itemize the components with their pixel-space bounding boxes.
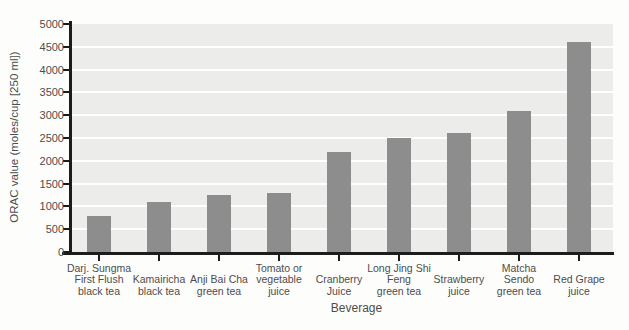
y-tick-label-4000: 4000 (0, 64, 64, 76)
y-tick-1000 (63, 205, 71, 207)
y-tick-label-500: 500 (0, 223, 64, 235)
gridline-3500 (72, 91, 613, 93)
y-tick-1500 (63, 183, 71, 185)
chart-bar-4 (267, 193, 291, 252)
gridline-2500 (72, 137, 613, 139)
chart-bar-3 (207, 195, 231, 252)
chart-bar-5 (327, 152, 351, 252)
orac-bar-chart-figure: ORAC value (moles/cup [250 ml]) Beverage… (0, 0, 629, 330)
y-tick-label-5000: 5000 (0, 18, 64, 30)
y-tick-5000 (63, 23, 71, 25)
y-tick-label-4500: 4500 (0, 41, 64, 53)
chart-bar-7 (447, 133, 471, 252)
y-tick-label-2000: 2000 (0, 155, 64, 167)
y-tick-4000 (63, 69, 71, 71)
y-tick-label-0: 0 (0, 246, 64, 258)
chart-bar-6 (387, 138, 411, 252)
y-tick-2500 (63, 137, 71, 139)
gridline-4500 (72, 46, 613, 48)
y-tick-500 (63, 228, 71, 230)
gridline-4000 (72, 69, 613, 71)
y-tick-3500 (63, 91, 71, 93)
y-tick-label-3000: 3000 (0, 109, 64, 121)
y-tick-2000 (63, 160, 71, 162)
category-label-9: Red Grape juice (541, 259, 617, 297)
y-tick-label-3500: 3500 (0, 86, 64, 98)
x-axis-title: Beverage (86, 301, 627, 315)
y-tick-label-1500: 1500 (0, 178, 64, 190)
y-tick-0 (63, 251, 71, 253)
chart-bar-2 (147, 202, 171, 252)
chart-bar-9 (567, 42, 591, 252)
y-tick-3000 (63, 114, 71, 116)
y-tick-4500 (63, 46, 71, 48)
chart-bar-1 (87, 216, 111, 252)
y-tick-label-2500: 2500 (0, 132, 64, 144)
chart-bar-8 (507, 111, 531, 252)
gridline-3000 (72, 114, 613, 116)
y-tick-label-1000: 1000 (0, 200, 64, 212)
